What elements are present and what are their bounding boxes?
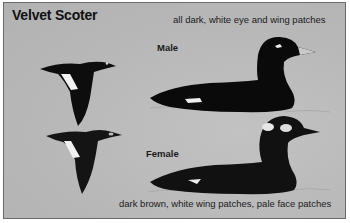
female-swimming-bird [150, 116, 320, 194]
bird-illustrations [0, 0, 350, 223]
male-swimming-bird [150, 37, 316, 112]
male-flying-bird [40, 62, 116, 126]
female-flying-bird [46, 130, 122, 194]
